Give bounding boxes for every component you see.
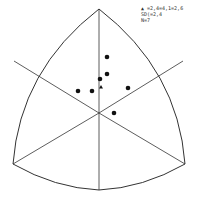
data-point — [112, 111, 117, 116]
radial-line — [14, 61, 99, 113]
radial-lines — [13, 9, 185, 190]
mean-marker — [99, 85, 103, 89]
mean-triangle-icon — [99, 85, 103, 89]
legend: ▲ =2,4=4,1=2,6 SD(=2,4 N=7 — [141, 5, 183, 23]
radial-line — [13, 113, 99, 164]
radial-line — [99, 61, 183, 113]
radial-line — [99, 113, 185, 164]
data-point — [105, 72, 110, 77]
data-point — [105, 55, 110, 60]
data-point — [76, 89, 81, 94]
data-points — [76, 55, 131, 116]
data-point — [126, 86, 131, 91]
legend-n-line: N=7 — [141, 17, 183, 23]
triangle-diagram — [0, 0, 197, 200]
data-point — [98, 77, 103, 82]
data-point — [90, 89, 95, 94]
